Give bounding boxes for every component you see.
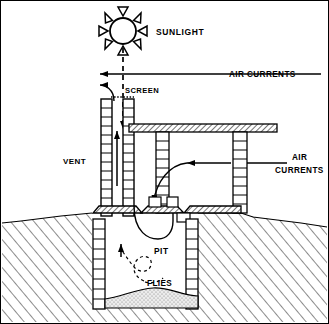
- vent-pipe: [101, 99, 134, 216]
- flies-label: FLIES: [147, 279, 172, 288]
- latrine-diagram: SUNLIGHT AIR CURRENTS SCREEN: [0, 0, 329, 324]
- air-currents-right-label-line2: CURRENTS: [275, 166, 324, 175]
- squat-hole: [149, 197, 161, 207]
- sludge-pile: [105, 288, 198, 308]
- sunlight-label: SUNLIGHT: [156, 27, 204, 37]
- squat-hole-lip: [167, 197, 178, 207]
- diagram-canvas: SUNLIGHT AIR CURRENTS SCREEN: [1, 1, 328, 323]
- pit-wall-left: [93, 219, 105, 309]
- screen-label: SCREEN: [125, 86, 159, 95]
- air-currents-top-label: AIR CURRENTS: [229, 70, 296, 79]
- superstructure-wall-right: [233, 132, 247, 213]
- roof-slab: [129, 124, 277, 132]
- sun-icon: [99, 7, 147, 55]
- pit-label: PIT: [154, 246, 169, 256]
- air-currents-right-label-line1: AIR: [292, 153, 307, 162]
- vent-label: VENT: [63, 157, 86, 166]
